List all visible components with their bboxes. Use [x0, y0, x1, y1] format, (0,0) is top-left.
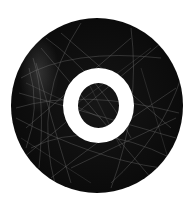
letter-o-glyph: O: [63, 68, 134, 143]
logo-circle: O: [11, 18, 183, 193]
logo-letter: O: [78, 83, 79, 84]
